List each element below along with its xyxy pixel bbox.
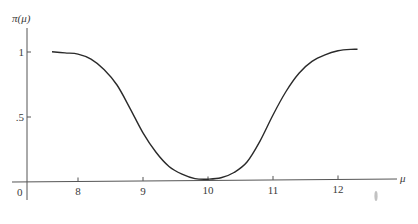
x-tick-label: 9 [140,185,146,197]
power-curve [52,49,358,179]
y-tick-label: 1 [19,46,25,58]
x-tick-label: 12 [333,183,344,195]
y-tick-label: .5 [16,111,25,123]
power-function-chart: π(μ) μ 0 89101112.51 [0,0,418,224]
origin-label: 0 [17,186,23,198]
x-tick-label: 11 [268,184,279,196]
x-tick-label: 10 [203,184,215,196]
x-tick-label: 8 [75,185,81,197]
y-axis-title: π(μ) [12,12,31,25]
x-axis-title: μ [399,172,406,184]
smudge-mark [374,191,377,201]
ticks-group: 89101112.51 [16,46,344,197]
